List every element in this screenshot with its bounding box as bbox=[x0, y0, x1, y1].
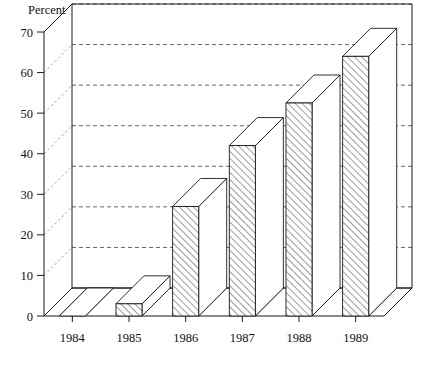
bar-1985 bbox=[116, 276, 170, 316]
y-tick-label: 60 bbox=[21, 66, 34, 80]
y-tick-label: 30 bbox=[21, 188, 34, 202]
y-axis-ticks: 010203040506070 bbox=[21, 26, 45, 324]
bar-side-face bbox=[369, 28, 397, 316]
x-tick-label: 1988 bbox=[287, 331, 312, 345]
gridline-connector bbox=[44, 207, 72, 235]
bar-chart-figure: Percent 010203040506070 1984198519861987… bbox=[0, 0, 430, 370]
x-tick-label: 1986 bbox=[173, 331, 198, 345]
bar-1986 bbox=[173, 178, 227, 316]
gridline-connector bbox=[44, 166, 72, 194]
bar-front-face bbox=[286, 103, 312, 316]
x-axis-ticks: 198419851986198719881989 bbox=[60, 316, 368, 345]
y-tick-label: 20 bbox=[21, 228, 34, 242]
bar-1987 bbox=[229, 118, 283, 316]
gridline-connector bbox=[44, 85, 72, 113]
x-tick-label: 1985 bbox=[117, 331, 142, 345]
chart-canvas: Percent 010203040506070 1984198519861987… bbox=[0, 0, 430, 370]
y-axis-title: Percent bbox=[28, 3, 66, 17]
y-tick-label: 0 bbox=[27, 310, 33, 324]
gridline-connector bbox=[44, 126, 72, 154]
gridline-connector bbox=[44, 45, 72, 73]
bar-1988 bbox=[286, 75, 340, 316]
bar-front-face bbox=[116, 304, 142, 316]
bars-group bbox=[59, 28, 396, 316]
bar-front-face bbox=[173, 206, 199, 316]
x-tick-label: 1984 bbox=[60, 331, 86, 345]
bar-1989 bbox=[343, 28, 397, 316]
y-tick-label: 70 bbox=[21, 26, 34, 40]
gridline-connector bbox=[44, 247, 72, 275]
bar-front-face bbox=[343, 56, 369, 316]
bar-front-face bbox=[229, 146, 255, 316]
bar-side-face bbox=[255, 118, 283, 316]
y-tick-label: 50 bbox=[21, 107, 34, 121]
y-tick-label: 10 bbox=[21, 269, 34, 283]
x-tick-label: 1989 bbox=[343, 331, 368, 345]
y-tick-label: 40 bbox=[21, 147, 34, 161]
x-tick-label: 1987 bbox=[230, 331, 255, 345]
bar-side-face bbox=[312, 75, 340, 316]
